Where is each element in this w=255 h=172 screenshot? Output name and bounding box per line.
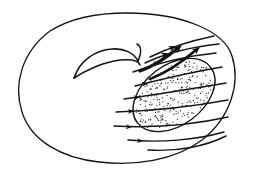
stipple-dot [193, 100, 194, 101]
stipple-dot [151, 93, 152, 94]
stipple-dot [170, 105, 171, 106]
stipple-dot [183, 113, 184, 114]
stipple-dot [173, 80, 174, 81]
stipple-dot [197, 98, 198, 99]
stipple-dot [166, 95, 167, 96]
stipple-dot [145, 101, 146, 102]
stipple-dot [140, 113, 141, 114]
stipple-dot [156, 117, 157, 118]
stipple-dot [173, 100, 174, 101]
stipple-dot [150, 104, 151, 105]
stipple-dot [172, 78, 173, 79]
stipple-dot [187, 86, 188, 87]
stipple-dot [160, 117, 161, 118]
stipple-dot [139, 113, 140, 114]
figure-background [0, 0, 255, 172]
stipple-dot [180, 79, 181, 80]
stipple-dot [208, 83, 209, 84]
stipple-dot [207, 97, 208, 98]
stipple-dot [144, 86, 145, 87]
stipple-dot [184, 66, 185, 67]
stipple-dot [189, 93, 190, 94]
stipple-dot [181, 78, 182, 79]
stipple-dot [170, 98, 171, 99]
stipple-dot [141, 118, 142, 119]
stipple-dot [187, 116, 188, 117]
stipple-dot [200, 107, 201, 108]
stipple-dot [156, 105, 157, 106]
stipple-dot [162, 97, 163, 98]
stipple-dot [150, 101, 151, 102]
stipple-dot [158, 120, 159, 121]
stipple-dot [178, 102, 179, 103]
stipple-dot [186, 87, 187, 88]
stipple-dot [167, 123, 168, 124]
stipple-dot [179, 92, 180, 93]
stipple-dot [192, 66, 193, 67]
stipple-dot [171, 65, 172, 66]
stipple-dot [140, 104, 141, 105]
stipple-dot [157, 111, 158, 112]
stipple-dot [167, 86, 168, 87]
stipple-dot [173, 70, 174, 71]
stipple-dot [187, 90, 188, 91]
stipple-dot [170, 80, 171, 81]
stipple-dot [144, 100, 145, 101]
stipple-dot [206, 93, 207, 94]
stipple-dot [182, 103, 183, 104]
stipple-dot [175, 113, 176, 114]
stipple-dot [203, 71, 204, 72]
stipple-dot [193, 113, 194, 114]
stipple-dot [177, 119, 178, 120]
stipple-dot [201, 84, 202, 85]
stipple-dot [151, 124, 152, 125]
stipple-dot [176, 69, 177, 70]
stipple-dot [196, 97, 197, 98]
stipple-dot [210, 89, 211, 90]
stipple-dot [168, 103, 169, 104]
stipple-dot [154, 83, 155, 84]
stipple-dot [205, 68, 206, 69]
stipple-dot [182, 105, 183, 106]
stipple-dot [173, 74, 174, 75]
stipple-dot [167, 83, 168, 84]
stipple-dot [159, 99, 160, 100]
stipple-dot [201, 91, 202, 92]
stipple-dot [200, 88, 201, 89]
stipple-dot [188, 70, 189, 71]
stipple-dot [192, 75, 193, 76]
stipple-dot [189, 61, 190, 62]
stipple-dot [157, 83, 158, 84]
stipple-dot [147, 96, 148, 97]
stipple-dot [172, 82, 173, 83]
stipple-dot [165, 120, 166, 121]
stipple-dot [169, 111, 170, 112]
stipple-dot [183, 93, 184, 94]
stipple-dot [197, 102, 198, 103]
stipple-dot [153, 99, 154, 100]
stipple-dot [196, 68, 197, 69]
stipple-dot [165, 124, 166, 125]
stipple-dot [187, 114, 188, 115]
stipple-dot [191, 112, 192, 113]
stipple-dot [186, 92, 187, 93]
stipple-dot [170, 109, 171, 110]
stipple-dot [159, 102, 160, 103]
stipple-dot [159, 104, 160, 105]
stipple-dot [163, 106, 164, 107]
flow-diagram [0, 0, 255, 172]
stipple-dot [189, 66, 190, 67]
stipple-dot [187, 82, 188, 83]
stipple-dot [184, 115, 185, 116]
stipple-dot [194, 102, 195, 103]
stipple-dot [160, 115, 161, 116]
stipple-dot [166, 105, 167, 106]
stipple-dot [150, 119, 151, 120]
stipple-dot [190, 102, 191, 103]
stipple-dot [205, 75, 206, 76]
stipple-dot [187, 112, 188, 113]
stipple-dot [141, 115, 142, 116]
stipple-dot [149, 104, 150, 105]
stipple-dot [194, 94, 195, 95]
stipple-dot [205, 95, 206, 96]
